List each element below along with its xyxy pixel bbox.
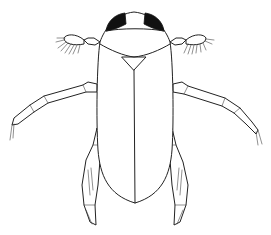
- middle-leg-left: [10, 82, 97, 140]
- front-leg-left: [56, 35, 100, 54]
- beetle-illustration: [0, 0, 271, 235]
- beetle-body: [97, 12, 173, 203]
- middle-leg-right: [173, 82, 262, 145]
- front-leg-right: [170, 35, 214, 54]
